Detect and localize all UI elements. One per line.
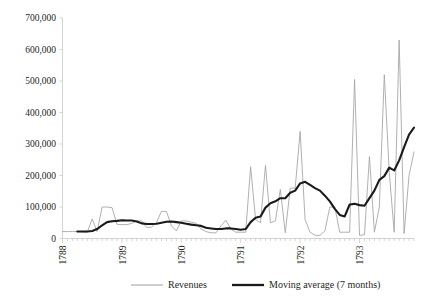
y-axis-tick-label: 400,000 bbox=[25, 108, 56, 118]
x-axis-tick-label: 1790 bbox=[177, 245, 187, 264]
x-axis-tick-label: 1789 bbox=[118, 245, 128, 264]
x-axis-tick-label: 1792 bbox=[296, 245, 306, 264]
legend-label-moving-average: Moving average (7 months) bbox=[269, 279, 380, 291]
y-axis-tick-label: 0 bbox=[51, 234, 56, 244]
x-axis-tick-label: 1788 bbox=[58, 245, 68, 264]
x-axis-tick-label: 1791 bbox=[236, 245, 246, 264]
y-axis-tick-label: 700,000 bbox=[25, 13, 56, 23]
x-axis-tick-label: 1793 bbox=[355, 245, 365, 264]
line-chart: 0100,000200,000300,000400,000500,000600,… bbox=[0, 0, 427, 302]
y-axis-tick-label: 500,000 bbox=[25, 76, 56, 86]
y-axis-tick-label: 200,000 bbox=[25, 171, 56, 181]
y-axis-tick-label: 600,000 bbox=[25, 45, 56, 55]
y-axis-tick-label: 100,000 bbox=[25, 202, 56, 212]
chart-container: 0100,000200,000300,000400,000500,000600,… bbox=[0, 0, 427, 302]
legend-label-revenues: Revenues bbox=[168, 279, 207, 290]
y-axis-tick-label: 300,000 bbox=[25, 139, 56, 149]
